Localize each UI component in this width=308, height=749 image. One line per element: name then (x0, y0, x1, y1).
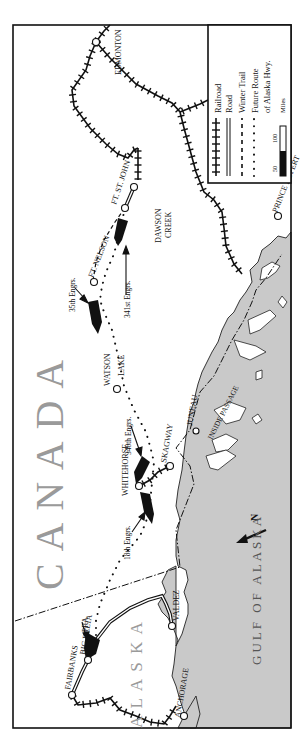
town-edmonton (93, 39, 100, 46)
legend-railroad: Railroad (213, 83, 223, 113)
town-valdez (169, 623, 176, 630)
legend-future-route: Future Route (250, 68, 260, 113)
label-ft-nelson: FT. NELSON (87, 234, 112, 279)
label-alaska: A L A S K A (127, 620, 146, 728)
label-pra: PRA (81, 617, 90, 632)
town-ft-nelson (91, 279, 98, 286)
arrow-340th (134, 456, 150, 484)
label-341st-engrs: 341st Engrs. (123, 280, 132, 318)
town-watson-lake (114, 386, 121, 393)
legend-scale-unit: Miles (279, 98, 286, 113)
town-juneau (193, 428, 199, 434)
town-ft-st-john (122, 205, 129, 212)
gulf-of-alaska-water (172, 232, 291, 728)
legend-road: Road (224, 94, 234, 113)
legend-scale-50: 50 (272, 166, 278, 172)
legend-winter-trail: Winter Trail (237, 71, 247, 113)
legend-scale-100: 100 (272, 134, 278, 143)
label-watson-lake-1: WATSON (103, 353, 112, 386)
railroad-alaska (72, 695, 176, 724)
arrow-35th (88, 300, 102, 334)
label-gulf-of-alaska: GULF OF ALASKA (249, 514, 264, 665)
town-big-delta (85, 657, 92, 664)
legend: Railroad Road Winter Trail Future Route … (208, 25, 291, 183)
label-dawson-creek-1: DAWSON (154, 208, 163, 243)
label-valdez: VALDEZ (172, 590, 181, 621)
label-dawson-creek-2: CREEK (164, 212, 173, 238)
label-watson-lake-2: LAKE (117, 355, 126, 376)
alaska-highway-map: N C A N A D A A L A S K A GULF OF ALASKA… (0, 0, 308, 749)
legend-future-route-2: of Alaska Hwy. (262, 60, 272, 113)
label-340th-engrs: 340th Engrs. (124, 417, 133, 455)
town-whitehorse (136, 483, 143, 490)
label-skagway: SKAGWAY (159, 423, 175, 463)
town-dawson-creek (131, 184, 138, 191)
label-18th-engrs: 18th Engrs. (123, 525, 132, 560)
label-edmonton: EDMONTON (114, 29, 123, 75)
label-canada: C A N A D A (27, 358, 72, 590)
label-35th-engrs: 35th Engrs. (68, 277, 77, 312)
island (256, 370, 262, 380)
arrow-341st (114, 218, 128, 246)
town-fairbanks (69, 692, 76, 699)
